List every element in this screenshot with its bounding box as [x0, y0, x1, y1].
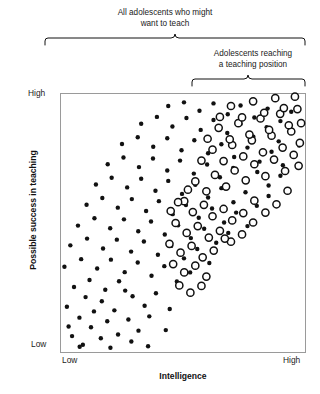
filled-dot — [123, 288, 127, 292]
y-axis-label: Possible success in teaching — [28, 110, 38, 310]
open-circle — [177, 249, 184, 256]
filled-dot — [276, 139, 280, 143]
y-tick-low: Low — [31, 339, 46, 349]
filled-dot — [99, 336, 103, 340]
open-circle — [220, 205, 227, 212]
filled-dot — [77, 315, 81, 319]
open-circle — [209, 146, 216, 153]
filled-dot — [103, 288, 107, 292]
filled-dot — [70, 334, 74, 338]
open-circle — [166, 240, 173, 247]
open-circle — [199, 254, 206, 261]
filled-dot — [149, 219, 153, 223]
open-circle — [238, 114, 245, 121]
open-circle — [250, 219, 257, 226]
open-circle — [203, 188, 210, 195]
open-circle — [251, 197, 258, 204]
open-circle — [240, 153, 247, 160]
filled-dot — [108, 346, 112, 350]
open-circle — [184, 186, 191, 193]
filled-dot — [112, 308, 116, 312]
open-circle — [280, 104, 287, 111]
filled-dot — [162, 264, 166, 268]
open-circle — [189, 208, 196, 215]
filled-dot — [266, 194, 270, 198]
filled-dot — [147, 314, 151, 318]
filled-dot — [137, 165, 141, 169]
filled-dot — [195, 247, 199, 251]
open-circle — [205, 234, 212, 241]
open-circle — [187, 289, 194, 296]
filled-dot — [109, 176, 113, 180]
open-circle — [266, 126, 273, 133]
filled-dot — [289, 110, 293, 114]
filled-dot — [115, 237, 119, 241]
filled-dot — [214, 241, 218, 245]
filled-dot — [197, 216, 201, 220]
filled-dot — [117, 279, 121, 283]
open-circle — [261, 109, 268, 116]
filled-dot — [206, 195, 210, 199]
open-circle — [296, 139, 303, 146]
open-circle — [227, 102, 234, 109]
open-circle — [242, 177, 249, 184]
open-circle — [194, 223, 201, 230]
filled-dot — [83, 295, 87, 299]
filled-dot — [100, 196, 104, 200]
open-circle — [246, 131, 253, 138]
filled-dot — [199, 128, 203, 132]
filled-dot — [85, 236, 89, 240]
filled-dot — [211, 118, 215, 122]
filled-dot — [122, 217, 126, 221]
filled-dot — [156, 253, 160, 257]
figure-scatter-intelligence-vs-teaching-success: All adolescents who might want to teach … — [0, 0, 320, 394]
filled-dot — [269, 150, 273, 154]
open-circle — [210, 247, 217, 254]
open-circle — [200, 201, 207, 208]
open-circle — [192, 262, 199, 269]
filled-dot — [126, 317, 130, 321]
filled-dot — [278, 173, 282, 177]
filled-dot — [243, 190, 247, 194]
filled-dot — [164, 328, 168, 332]
open-circle — [279, 144, 286, 151]
open-circle — [238, 231, 245, 238]
open-circle — [229, 217, 236, 224]
open-circle — [216, 113, 223, 120]
open-circle — [172, 219, 179, 226]
open-circle — [183, 229, 190, 236]
open-circle — [174, 199, 181, 206]
filled-dot — [189, 236, 193, 240]
open-circle — [226, 136, 233, 143]
filled-dot — [142, 303, 146, 307]
filled-dot — [121, 155, 125, 159]
filled-dot — [238, 103, 242, 107]
scatter-plot-canvas — [0, 0, 320, 394]
open-circle — [198, 282, 205, 289]
filled-dot — [180, 192, 184, 196]
filled-dot — [182, 256, 186, 260]
open-circle — [272, 95, 279, 102]
filled-dot — [129, 339, 133, 343]
filled-dot — [94, 182, 98, 186]
filled-dot — [109, 257, 113, 261]
filled-dot — [166, 179, 170, 183]
filled-dot — [154, 291, 158, 295]
filled-dot — [226, 231, 230, 235]
filled-dot — [182, 100, 186, 104]
filled-dot — [252, 115, 256, 119]
filled-dot — [125, 185, 129, 189]
filled-dot — [65, 305, 69, 309]
open-circle — [209, 213, 216, 220]
filled-dot — [136, 135, 140, 139]
filled-dot — [211, 101, 215, 105]
filled-dot — [108, 226, 112, 230]
filled-dot — [278, 119, 282, 123]
filled-dot — [234, 210, 238, 214]
filled-dot — [144, 209, 148, 213]
open-circle — [259, 149, 266, 156]
open-circle — [188, 242, 195, 249]
open-circle — [294, 106, 301, 113]
filled-dot — [192, 171, 196, 175]
open-circle — [216, 227, 223, 234]
